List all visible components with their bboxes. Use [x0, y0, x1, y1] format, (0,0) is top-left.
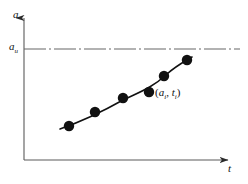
x-axis-label: t [228, 163, 231, 174]
figure-container: a au t (ai, ti) [0, 0, 248, 184]
data-point [144, 87, 154, 97]
data-point [159, 71, 169, 81]
plot-canvas [0, 0, 248, 184]
annotation-close-paren: ) [177, 86, 181, 98]
y-tick-subscript: u [15, 47, 19, 55]
data-point [64, 121, 74, 131]
data-point [90, 107, 100, 117]
point-annotation: (ai, ti) [155, 87, 180, 101]
y-axis-tick-label-au: au [9, 41, 18, 55]
data-point [118, 93, 128, 103]
y-axis-label: a [13, 9, 19, 20]
data-point [182, 55, 192, 65]
